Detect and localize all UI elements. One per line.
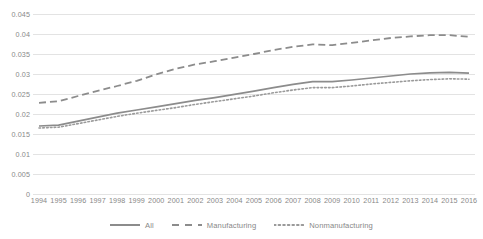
series-container [33,14,475,194]
chart-legend: AllManufacturingNonmanufacturing [0,218,483,232]
legend-swatch-dotted-icon [274,221,304,229]
x-axis: 1994199519961997199819992000200120022003… [33,196,475,210]
legend-swatch-dashed-icon [172,221,202,229]
gridline [33,194,475,195]
y-tick-label: 0.02 [0,110,30,119]
legend-label: Nonmanufacturing [309,221,373,230]
x-tick-label: 2011 [363,196,379,205]
legend-label: All [145,221,154,230]
x-tick-label: 1997 [89,196,105,205]
x-tick-label: 1999 [129,196,145,205]
x-tick-label: 1996 [70,196,86,205]
legend-label: Manufacturing [207,221,256,230]
x-tick-label: 2013 [402,196,418,205]
y-tick-label: 0 [0,190,30,199]
x-tick-label: 2015 [441,196,457,205]
x-tick-label: 2002 [187,196,203,205]
x-tick-label: 2003 [207,196,223,205]
series-line-manufacturing [39,35,469,103]
legend-item-all[interactable]: All [110,221,154,230]
x-tick-label: 2014 [422,196,438,205]
y-tick-label: 0.005 [0,170,30,179]
y-tick-label: 0.01 [0,150,30,159]
x-tick-label: 2007 [285,196,301,205]
x-tick-label: 2001 [168,196,184,205]
legend-swatch-solid-icon [110,221,140,229]
series-line-all [39,72,469,126]
x-tick-label: 2006 [265,196,281,205]
y-tick-label: 0.03 [0,70,30,79]
y-axis: 0.0450.040.0350.030.0250.020.0150.010.00… [0,0,30,200]
x-tick-label: 2008 [304,196,320,205]
legend-item-manufacturing[interactable]: Manufacturing [172,221,256,230]
y-tick-label: 0.035 [0,50,30,59]
plot-area [33,14,475,194]
x-tick-label: 2010 [344,196,360,205]
x-tick-label: 2004 [226,196,242,205]
y-tick-label: 0.04 [0,30,30,39]
y-tick-label: 0.025 [0,90,30,99]
x-tick-label: 1995 [50,196,66,205]
line-chart: 0.0450.040.0350.030.0250.020.0150.010.00… [0,0,483,239]
x-tick-label: 2012 [383,196,399,205]
x-tick-label: 2016 [461,196,477,205]
x-tick-label: 1994 [31,196,47,205]
series-line-nonmanufacturing [39,79,469,128]
y-tick-label: 0.045 [0,10,30,19]
x-tick-label: 2005 [246,196,262,205]
x-tick-label: 1998 [109,196,125,205]
y-tick-label: 0.015 [0,130,30,139]
x-tick-label: 2000 [148,196,164,205]
legend-item-nonmanufacturing[interactable]: Nonmanufacturing [274,221,373,230]
x-tick-label: 2009 [324,196,340,205]
